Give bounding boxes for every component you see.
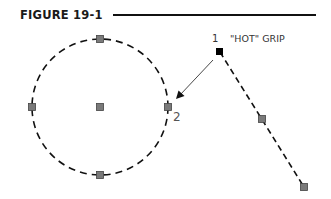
line-end-grip[interactable] bbox=[301, 184, 308, 191]
drawing-canvas bbox=[0, 0, 331, 199]
line-mid-grip[interactable] bbox=[259, 116, 266, 123]
label-point-1: 1 bbox=[212, 33, 218, 44]
circle-top-grip[interactable] bbox=[97, 36, 104, 43]
label-hot-grip: "HOT" GRIP bbox=[230, 33, 285, 44]
hot-grip[interactable] bbox=[216, 48, 223, 55]
circle-left-grip[interactable] bbox=[29, 104, 36, 111]
label-point-2: 2 bbox=[173, 110, 181, 124]
circle-right-grip[interactable] bbox=[165, 104, 172, 111]
circle-bottom-grip[interactable] bbox=[97, 172, 104, 179]
circle-center-grip[interactable] bbox=[97, 104, 104, 111]
leader-arrow-line bbox=[180, 60, 213, 95]
